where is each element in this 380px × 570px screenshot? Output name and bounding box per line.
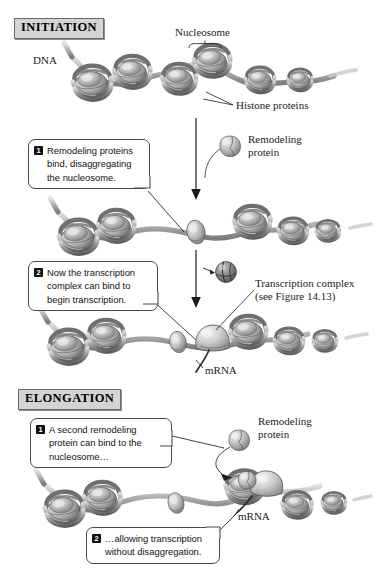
- label-dna: DNA: [33, 54, 57, 67]
- flow-arrow-1: [191, 118, 201, 200]
- chromatin-row-transcribing: [40, 308, 367, 372]
- chromatin-row-intact: [64, 43, 356, 102]
- callout-text: …allowing transcription without disaggre…: [105, 532, 202, 559]
- transcription-complex-glyph: [196, 325, 230, 351]
- nucleosome-brace: [189, 41, 221, 49]
- histone-leader-lines: [203, 92, 233, 105]
- remodeling-protein-glyph-dark: [203, 262, 236, 283]
- callout-number-badge: 2: [92, 534, 101, 543]
- label-transcription-complex: Transcription complex (see Figure 14.13): [255, 277, 355, 303]
- section-header-initiation: INITIATION: [14, 18, 104, 39]
- row3-leader-lines: [152, 290, 254, 368]
- callout-text: A second remodeling protein can bind to …: [49, 423, 142, 463]
- callout1-leader: [148, 191, 184, 232]
- callout-number-badge: 2: [34, 268, 43, 277]
- callout-elongation-step-2: 2 …allowing transcription without disagg…: [86, 527, 220, 564]
- label-mrna-elongation: mRNA: [238, 510, 270, 523]
- callout-text: Now the transcription complex can bind t…: [47, 266, 135, 306]
- label-mrna-initiation: mRNA: [205, 364, 237, 377]
- chromatin-row-elongation: [36, 469, 371, 528]
- callout-number-badge: 1: [36, 425, 45, 434]
- flow-arrow-2: [191, 250, 201, 308]
- elongation-leader-lines: [172, 436, 239, 535]
- label-remodeling-protein-initiation: Remodeling protein: [248, 133, 302, 159]
- callout-initiation-step-1: 1 Remodeling proteins bind, disaggregati…: [28, 139, 150, 189]
- callout-elongation-step-1: 1 A second remodeling protein can bind t…: [30, 418, 172, 468]
- callout-initiation-step-2: 2 Now the transcription complex can bind…: [28, 261, 158, 311]
- callout-number-badge: 1: [34, 146, 43, 155]
- nucleosome-with-complex-glyph: [224, 469, 282, 512]
- label-nucleosome: Nucleosome: [175, 26, 230, 39]
- label-histone-proteins: Histone proteins: [236, 99, 308, 112]
- label-remodeling-protein-elongation: Remodeling protein: [258, 415, 312, 441]
- chromatin-row-disaggregated: [50, 198, 371, 256]
- section-header-elongation: ELONGATION: [18, 389, 121, 410]
- callout-text: Remodeling proteins bind, disaggregating…: [47, 144, 133, 184]
- remodeling-protein-glyph-2: [216, 430, 250, 481]
- remodeling-protein-glyph-1: [205, 136, 240, 178]
